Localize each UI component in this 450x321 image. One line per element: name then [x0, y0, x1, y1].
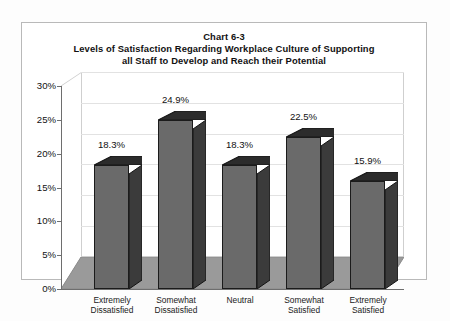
- x-axis-label-somewhat-dissatisfied: Somewhat Dissatisfied: [140, 295, 212, 316]
- bar-extremely-dissatisfied[interactable]: 18.3%: [94, 165, 129, 289]
- y-axis-label-10: 10%: [22, 215, 56, 226]
- bar-side-face: [321, 137, 334, 289]
- y-axis-label-5: 5%: [22, 249, 56, 260]
- bar-somewhat-satisfied[interactable]: 22.5%: [286, 137, 321, 289]
- bar-neutral[interactable]: 18.3%: [222, 165, 257, 289]
- bar-top-face: [94, 156, 142, 165]
- y-axis-label-20: 20%: [22, 148, 56, 159]
- gridline-30: [81, 72, 404, 73]
- y-tick-5: [57, 255, 61, 256]
- bar-front-face: [94, 165, 129, 289]
- y-axis-label-15: 15%: [22, 182, 56, 193]
- gridline-25: [81, 103, 404, 104]
- y-axis-label-0: 0%: [22, 283, 56, 294]
- y-tick-0: [57, 289, 61, 290]
- y-axis-labels: 30% 25% 20% 15% 10% 5% 0%: [22, 23, 56, 281]
- bar-front-face: [350, 181, 385, 289]
- bar-front-face: [158, 120, 193, 289]
- bar-top-face: [222, 156, 270, 165]
- bar-top-face: [286, 128, 334, 137]
- x-axis-label-extremely-dissatisfied: Extremely Dissatisfied: [76, 295, 148, 316]
- y-tick-15: [57, 188, 61, 189]
- plot-area: 18.3% 24.9% 18.3%: [22, 23, 428, 281]
- x-axis-label-neutral: Neutral: [204, 295, 276, 305]
- x-axis-label-extremely-satisfied: Extremely Satisfied: [332, 295, 404, 316]
- bar-extremely-satisfied[interactable]: 15.9%: [350, 181, 385, 289]
- gridline-20: [81, 134, 404, 135]
- bar-side-face: [129, 165, 142, 289]
- y-axis-label-25: 25%: [22, 114, 56, 125]
- bar-side-face: [385, 181, 398, 289]
- y-tick-25: [57, 120, 61, 121]
- bar-somewhat-dissatisfied[interactable]: 24.9%: [158, 120, 193, 289]
- chart-container: Chart 6-3 Levels of Satisfaction Regardi…: [21, 22, 427, 280]
- bar-top-face: [158, 111, 206, 120]
- bar-value-label: 18.3%: [226, 139, 253, 150]
- bar-value-label: 18.3%: [98, 139, 125, 150]
- x-axis-label-somewhat-satisfied: Somewhat Satisfied: [268, 295, 340, 316]
- bar-side-face: [193, 120, 206, 289]
- bar-front-face: [222, 165, 257, 289]
- y-axis-line: [61, 86, 62, 289]
- bar-side-face: [257, 165, 270, 289]
- y-tick-20: [57, 154, 61, 155]
- y-tick-30: [57, 86, 61, 87]
- y-axis-label-30: 30%: [22, 80, 56, 91]
- bar-top-face: [350, 172, 398, 181]
- bar-value-label: 22.5%: [290, 111, 317, 122]
- y-tick-10: [57, 221, 61, 222]
- x-axis-line: [61, 289, 404, 290]
- bar-front-face: [286, 137, 321, 289]
- bar-value-label: 24.9%: [162, 94, 189, 105]
- bar-value-label: 15.9%: [354, 155, 381, 166]
